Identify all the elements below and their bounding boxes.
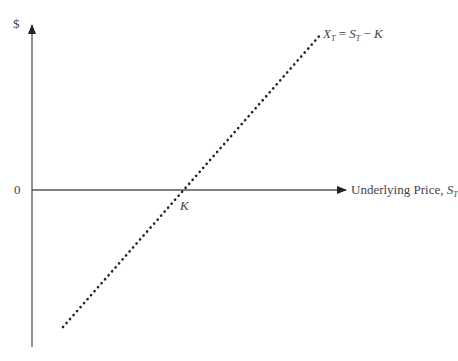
x-tick-k: K xyxy=(180,198,189,214)
x-axis-label-text: Underlying Price, xyxy=(351,182,443,197)
ann-minus: − xyxy=(363,26,370,41)
ann-eq: = xyxy=(339,26,346,41)
x-axis-label-sub: T xyxy=(453,190,457,199)
x-axis-label: Underlying Price, ST xyxy=(351,182,458,199)
ann-s-sub: T xyxy=(356,34,360,43)
ann-k: K xyxy=(374,26,383,41)
ann-x-sub: T xyxy=(331,34,335,43)
y-tick-zero: 0 xyxy=(14,182,21,198)
ann-x: X xyxy=(323,26,331,41)
y-axis-label: $ xyxy=(13,16,20,32)
payoff-annotation: XT = ST − K xyxy=(323,26,383,43)
payoff-line xyxy=(63,34,321,327)
